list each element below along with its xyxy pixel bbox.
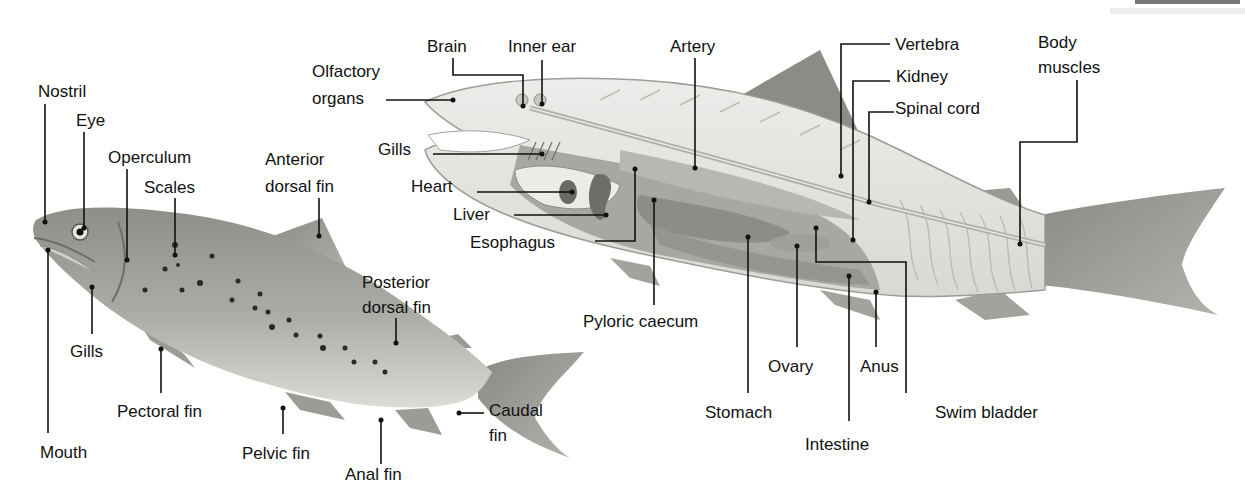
label-caudal-fin-line1: Caudal [489, 401, 543, 420]
label-olfactory-line1: Olfactory [312, 62, 381, 81]
label-anterior-dorsal-fin-line2: dorsal fin [265, 177, 334, 196]
fish-anatomy-diagram: Nostril Eye Operculum Scales Anterior do… [0, 0, 1245, 496]
label-kidney: Kidney [896, 67, 948, 86]
label-body-muscles-line1: Body [1038, 33, 1077, 52]
label-posterior-dorsal-fin-line2: dorsal fin [362, 298, 431, 317]
label-scales: Scales [144, 178, 195, 197]
label-inner-ear: Inner ear [508, 37, 576, 56]
label-heart: Heart [411, 177, 453, 196]
label-liver: Liver [453, 205, 490, 224]
label-gills-external: Gills [70, 342, 103, 361]
label-stomach: Stomach [705, 403, 772, 422]
label-operculum: Operculum [108, 148, 191, 167]
label-olfactory-line2: organs [312, 89, 364, 108]
label-artery: Artery [670, 37, 716, 56]
label-spinal-cord: Spinal cord [895, 99, 980, 118]
label-gills-internal: Gills [378, 140, 411, 159]
label-caudal-fin-line2: fin [489, 426, 507, 445]
label-pyloric-caecum: Pyloric caecum [583, 312, 698, 331]
label-vertebra: Vertebra [895, 35, 960, 54]
cropped-heading-fragment [1110, 0, 1245, 14]
label-swim-bladder: Swim bladder [935, 403, 1038, 422]
label-intestine: Intestine [805, 435, 869, 454]
label-anus: Anus [860, 357, 899, 376]
label-esophagus: Esophagus [470, 233, 555, 252]
internal-caudal-fin [1040, 188, 1225, 315]
label-anal-fin: Anal fin [345, 465, 402, 484]
ovary-shape [770, 234, 830, 252]
label-pectoral-fin: Pectoral fin [117, 402, 202, 421]
label-mouth: Mouth [40, 443, 87, 462]
internal-fish-illustration [425, 50, 1225, 320]
label-body-muscles-line2: muscles [1038, 58, 1100, 77]
label-brain: Brain [427, 37, 467, 56]
label-posterior-dorsal-fin-line1: Posterior [362, 273, 430, 292]
label-ovary: Ovary [768, 357, 814, 376]
label-nostril: Nostril [38, 82, 86, 101]
label-anterior-dorsal-fin-line1: Anterior [265, 150, 325, 169]
label-pelvic-fin: Pelvic fin [242, 444, 310, 463]
label-eye: Eye [76, 111, 105, 130]
